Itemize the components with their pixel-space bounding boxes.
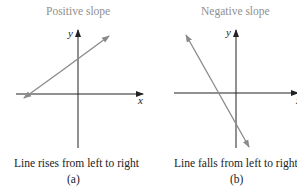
panel-a-x-label: x [137,94,143,106]
panel-b-x-label: x [295,94,297,106]
panel-b-y-label: y [225,26,231,38]
panel-b-label: (b) [230,173,243,185]
panel-a-caption: Line rises from left to right [14,157,139,169]
panel-b-caption: Line falls from left to right [174,157,297,169]
panel-a-label: (a) [67,173,80,185]
panel-a-axes [16,30,143,148]
panel-b-negative-line [186,35,249,147]
panel-a-positive-line [24,36,109,98]
panel-a-y-label: y [67,27,73,39]
